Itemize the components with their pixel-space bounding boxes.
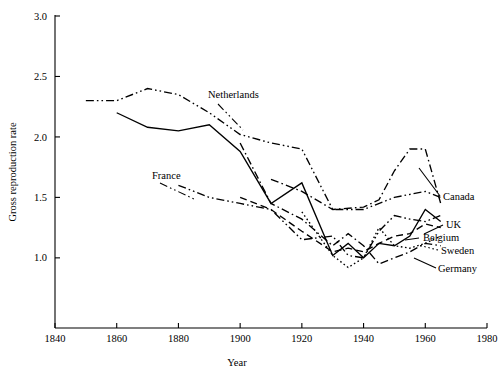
- leader-line-netherlands: [218, 104, 243, 130]
- leader-line-sweden: [418, 245, 438, 250]
- series-line-canada: [271, 149, 441, 209]
- series-line-belgium: [240, 197, 441, 251]
- series-label-france: France: [152, 170, 181, 181]
- series-label-sweden: Sweden: [441, 245, 475, 256]
- series-label-belgium: Belgium: [423, 232, 459, 243]
- y-axis-ticks: [55, 16, 60, 258]
- annotation-leader-lines: [160, 104, 443, 268]
- y-tick-label: 1.5: [34, 192, 47, 203]
- x-tick-label: 1920: [291, 333, 312, 344]
- data-series-group: [86, 89, 441, 268]
- series-label-netherlands: Netherlands: [208, 89, 259, 100]
- y-axis-title: Gross reproduction rate: [7, 122, 18, 221]
- x-tick-label: 1940: [353, 333, 374, 344]
- leader-line-germany: [414, 258, 436, 268]
- x-axis-ticks: [55, 323, 487, 328]
- series-label-germany: Germany: [438, 263, 478, 274]
- y-axis-tick-labels: 1.01.52.02.53.0: [34, 11, 47, 264]
- leader-line-france: [160, 183, 196, 200]
- y-tick-label: 1.0: [34, 252, 47, 263]
- series-label-uk: UK: [446, 219, 462, 230]
- chart-canvas: 1.01.52.02.53.0 184018601880190019201940…: [0, 0, 501, 380]
- leader-line-canada: [419, 168, 440, 196]
- y-tick-label: 2.5: [34, 71, 47, 82]
- x-tick-label: 1860: [106, 333, 127, 344]
- x-tick-label: 1840: [45, 333, 66, 344]
- x-tick-label: 1880: [168, 333, 189, 344]
- x-tick-label: 1960: [415, 333, 436, 344]
- y-tick-label: 3.0: [34, 11, 47, 22]
- x-tick-label: 1900: [230, 333, 251, 344]
- x-axis-tick-labels: 18401860188019001920194019601980: [45, 333, 498, 344]
- x-axis-title: Year: [227, 357, 247, 368]
- y-tick-label: 2.0: [34, 132, 47, 143]
- gross-reproduction-rate-chart: 1.01.52.02.53.0 184018601880190019201940…: [0, 0, 501, 380]
- series-label-canada: Canada: [443, 191, 475, 202]
- x-tick-label: 1980: [477, 333, 498, 344]
